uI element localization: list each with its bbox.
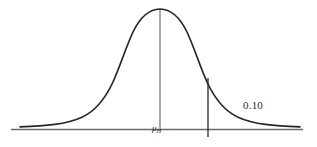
mean-axis-label: μH: [152, 124, 161, 135]
normal-distribution-figure: μH 0.10: [0, 0, 317, 147]
tail-area-label: 0.10: [243, 100, 263, 111]
mean-subscript: H: [157, 127, 162, 134]
